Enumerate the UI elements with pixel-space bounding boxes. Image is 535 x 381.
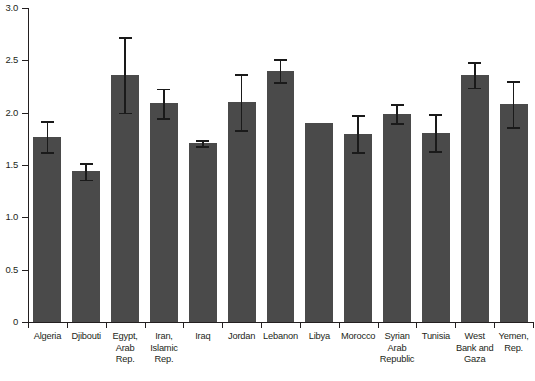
bar-group	[344, 8, 372, 322]
error-bar-line	[163, 89, 165, 118]
bar	[267, 71, 295, 322]
x-axis-tick	[494, 322, 495, 328]
x-axis-category-label: Jordan	[222, 331, 261, 343]
error-bar-cap-upper	[157, 89, 170, 91]
x-axis-category-label: Yemen, Rep.	[494, 331, 533, 354]
y-axis-tick-label: 0	[0, 317, 18, 327]
x-axis-tick	[300, 322, 301, 328]
x-axis-category-label: Iraq	[183, 331, 222, 343]
x-axis-tick	[455, 322, 456, 328]
bar	[72, 171, 100, 322]
error-bar-cap-lower	[119, 113, 132, 115]
bar	[33, 137, 61, 322]
x-axis-category-label: Syrian Arab Republic	[378, 331, 417, 366]
y-axis-tick-label: 2.5	[0, 55, 18, 65]
x-axis-category-label: Morocco	[339, 331, 378, 343]
error-bar-line	[396, 104, 398, 123]
bar-group	[189, 8, 217, 322]
bar-group	[500, 8, 528, 322]
error-bar-cap-lower	[507, 127, 520, 129]
error-bar-cap-lower	[468, 88, 481, 90]
x-axis-tick	[106, 322, 107, 328]
x-axis-category-label: Libya	[300, 331, 339, 343]
error-bar-cap-lower	[157, 118, 170, 120]
x-axis-tick	[222, 322, 223, 328]
bar	[228, 102, 256, 322]
error-bar-cap-upper	[274, 59, 287, 61]
error-bar-line	[241, 74, 243, 131]
error-bar-cap-upper	[507, 81, 520, 83]
bar	[461, 75, 489, 322]
x-axis-tick	[67, 322, 68, 328]
bar	[500, 104, 528, 322]
x-axis-category-label: Lebanon	[261, 331, 300, 343]
x-axis-tick	[378, 322, 379, 328]
y-axis-tick-label: 2.0	[0, 108, 18, 118]
error-bar-cap-upper	[196, 140, 209, 142]
error-bar-cap-lower	[274, 82, 287, 84]
x-axis-line	[28, 322, 533, 323]
x-axis-tick	[339, 322, 340, 328]
x-axis-category-label: West Bank and Gaza	[455, 331, 494, 366]
error-bar-cap-lower	[196, 146, 209, 148]
error-bar-cap-upper	[235, 74, 248, 76]
error-bar-cap-lower	[41, 152, 54, 154]
bar-group	[383, 8, 411, 322]
error-bar-cap-lower	[352, 152, 365, 154]
error-bar-cap-upper	[468, 62, 481, 64]
bar-group	[72, 8, 100, 322]
error-bar-cap-lower	[391, 123, 404, 125]
error-bar-line	[474, 62, 476, 87]
plot-area	[28, 8, 533, 322]
error-bar-line	[85, 163, 87, 180]
x-axis-tick	[183, 322, 184, 328]
x-axis-tick	[145, 322, 146, 328]
y-axis-tick-label: 1.5	[0, 160, 18, 170]
error-bar-line	[513, 81, 515, 127]
error-bar-line	[435, 114, 437, 152]
error-bar-line	[124, 37, 126, 112]
bar-group	[461, 8, 489, 322]
x-axis-tick	[261, 322, 262, 328]
y-axis-tick-label: 1.0	[0, 212, 18, 222]
bar	[383, 114, 411, 322]
x-axis-category-label: Djibouti	[67, 331, 106, 343]
y-axis-tick-label: 0.5	[0, 265, 18, 275]
error-bar-cap-upper	[119, 37, 132, 39]
bar	[344, 134, 372, 322]
bar-chart: 00.51.01.52.02.53.0 AlgeriaDjiboutiEgypt…	[0, 0, 535, 381]
x-axis-tick	[28, 322, 29, 328]
x-axis-category-label: Tunisia	[416, 331, 455, 343]
error-bar-cap-upper	[429, 114, 442, 116]
error-bar-line	[357, 115, 359, 153]
x-axis-category-label: Iran, Islamic Rep.	[145, 331, 184, 366]
x-axis-category-label: Algeria	[28, 331, 67, 343]
x-axis-tick	[533, 322, 534, 328]
bar-group	[228, 8, 256, 322]
error-bar-cap-upper	[391, 104, 404, 106]
error-bar-cap-lower	[235, 130, 248, 132]
bar-group	[305, 8, 333, 322]
x-axis-category-label: Egypt, Arab Rep.	[106, 331, 145, 366]
bar-group	[422, 8, 450, 322]
bar	[422, 133, 450, 322]
y-axis-tick-label: 3.0	[0, 3, 18, 13]
bar-group	[111, 8, 139, 322]
error-bar-cap-upper	[352, 115, 365, 117]
error-bar-line	[47, 121, 49, 152]
bar	[189, 143, 217, 322]
error-bar-line	[280, 59, 282, 82]
bar	[305, 123, 333, 322]
x-axis-tick	[416, 322, 417, 328]
error-bar-cap-upper	[41, 121, 54, 123]
bar-group	[150, 8, 178, 322]
bar	[150, 103, 178, 322]
bar-group	[33, 8, 61, 322]
error-bar-cap-lower	[80, 180, 93, 182]
error-bar-cap-upper	[80, 163, 93, 165]
bar-group	[267, 8, 295, 322]
error-bar-cap-lower	[429, 151, 442, 153]
